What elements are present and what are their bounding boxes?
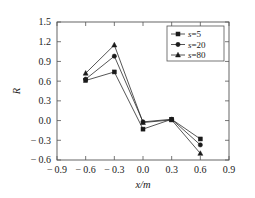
legend-label-0: s=5 [188, 29, 202, 39]
data-point-square [141, 127, 145, 131]
data-point-circle [176, 42, 180, 46]
x-tick-label: − 0.3 [104, 164, 124, 175]
data-point-triangle [112, 42, 117, 47]
data-point-circle [112, 54, 116, 58]
x-tick-label: 0.0 [137, 164, 150, 175]
data-point-circle [198, 143, 202, 147]
x-tick-label: 0.6 [194, 164, 207, 175]
y-tick-label: 0.9 [39, 56, 52, 67]
legend-label-1: s=20 [188, 40, 206, 50]
x-axis-label: x/m [134, 179, 151, 190]
legend-label-2: s=80 [188, 50, 206, 60]
series-line-1 [86, 56, 201, 145]
x-tick-label: − 0.6 [76, 164, 96, 175]
y-tick-label: 1.5 [39, 16, 52, 27]
chart-figure: − 0.9− 0.6− 0.30.00.30.60.91.51.20.90.60… [0, 0, 255, 198]
x-tick-label: 0.3 [165, 164, 178, 175]
x-tick-label: − 0.9 [47, 164, 67, 175]
x-tick-label: 0.9 [223, 164, 236, 175]
data-point-square [176, 32, 180, 36]
y-tick-label: 1.2 [39, 36, 52, 47]
data-point-square [198, 137, 202, 141]
y-axis-label: R [11, 87, 22, 95]
data-point-circle [84, 77, 88, 81]
y-tick-label: 0.0 [39, 115, 52, 126]
y-tick-label: 0.3 [39, 95, 52, 106]
line-chart: − 0.9− 0.6− 0.30.00.30.60.91.51.20.90.60… [0, 0, 255, 198]
data-point-square [112, 70, 116, 74]
y-tick-label: 0.6 [39, 76, 52, 87]
y-tick-label: − 0.6 [31, 154, 51, 165]
y-tick-label: − 0.3 [31, 135, 51, 146]
